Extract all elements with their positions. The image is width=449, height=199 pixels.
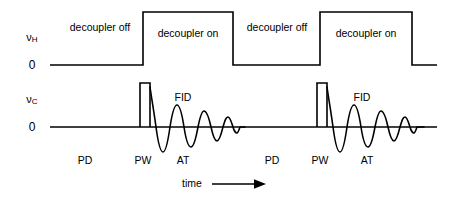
decoupler-segment-label-3: decoupler off <box>247 22 308 33</box>
decoupler-segment-label-2: decoupler on <box>158 28 219 39</box>
time-arrow-icon <box>212 179 266 189</box>
proton-channel-axis-label: νH <box>26 32 37 44</box>
timing-label-at-1: AT <box>177 155 190 166</box>
fid-label-2: FID <box>354 92 371 103</box>
nmr-pulse-sequence-figure: νH 0 νC 0 decoupler off decoupler on dec… <box>0 0 449 199</box>
timing-label-at-2: AT <box>361 155 374 166</box>
decoupler-segment-label-4: decoupler on <box>336 28 397 39</box>
timing-label-pd-2: PD <box>265 155 280 166</box>
carbon-zero-label: 0 <box>29 121 36 133</box>
fid-label-1: FID <box>175 92 192 103</box>
proton-zero-label: 0 <box>29 59 36 71</box>
decoupler-segment-label-1: decoupler off <box>70 22 131 33</box>
timing-label-pw-2: PW <box>312 155 329 166</box>
pulse-width-rect-2 <box>317 83 327 127</box>
fid-waveform-1 <box>150 87 245 152</box>
carbon-channel-axis-label: νC <box>26 94 37 106</box>
pulse-width-rect-1 <box>140 83 150 127</box>
fid-waveform-2 <box>327 87 424 152</box>
timing-label-pd-1: PD <box>78 155 93 166</box>
time-axis-label: time <box>182 178 202 189</box>
timing-label-pw-1: PW <box>135 155 152 166</box>
